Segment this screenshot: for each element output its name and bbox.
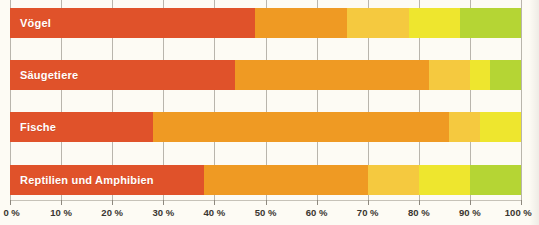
bar-row[interactable] [10, 165, 521, 195]
bar-row[interactable] [10, 8, 521, 38]
axis-tick-0 [10, 200, 11, 205]
axis-tick-label: 0 % [3, 207, 19, 218]
bar-segment[interactable] [10, 60, 235, 90]
bar-segment[interactable] [347, 8, 408, 38]
axis-tick-label: 60 % [306, 207, 328, 218]
stacked-bar-chart: VögelSäugetiereFischeReptilien und Amphi… [0, 0, 539, 225]
axis-tick-30 [163, 200, 164, 205]
axis-tick-label: 80 % [408, 207, 430, 218]
bar-segment[interactable] [204, 165, 368, 195]
bar-segment[interactable] [480, 112, 521, 142]
bar-segment[interactable] [470, 165, 521, 195]
bar-segment[interactable] [460, 8, 521, 38]
axis-tick-80 [419, 200, 420, 205]
x-axis: 0 %10 %20 %30 %40 %50 %60 %70 %80 %90 %1… [10, 200, 521, 225]
bar-segment[interactable] [235, 60, 429, 90]
axis-tick-label: 20 % [101, 207, 123, 218]
bar-segment[interactable] [449, 112, 480, 142]
axis-tick-100 [521, 200, 522, 205]
bar-segment[interactable] [409, 8, 460, 38]
axis-tick-40 [214, 200, 215, 205]
axis-tick-label: 100 % [505, 207, 532, 218]
bar-rows: VögelSäugetiereFischeReptilien und Amphi… [10, 0, 521, 200]
axis-tick-70 [368, 200, 369, 205]
bar-segment[interactable] [10, 165, 204, 195]
bar-segment[interactable] [10, 112, 153, 142]
axis-tick-label: 70 % [357, 207, 379, 218]
axis-tick-90 [470, 200, 471, 205]
plot-area: VögelSäugetiereFischeReptilien und Amphi… [10, 0, 521, 200]
bar-segment[interactable] [490, 60, 521, 90]
axis-tick-50 [266, 200, 267, 205]
bar-segment[interactable] [470, 60, 490, 90]
axis-tick-60 [317, 200, 318, 205]
axis-tick-label: 10 % [50, 207, 72, 218]
bar-segment[interactable] [153, 112, 449, 142]
axis-tick-label: 90 % [459, 207, 481, 218]
gridline-100 [521, 0, 522, 200]
axis-tick-label: 50 % [255, 207, 277, 218]
axis-tick-label: 40 % [204, 207, 226, 218]
bar-segment[interactable] [10, 8, 255, 38]
bar-segment[interactable] [255, 8, 347, 38]
page-edge-shadow [529, 0, 539, 225]
bar-segment[interactable] [368, 165, 419, 195]
axis-tick-10 [61, 200, 62, 205]
bar-row[interactable] [10, 60, 521, 90]
bar-row[interactable] [10, 112, 521, 142]
axis-tick-20 [112, 200, 113, 205]
axis-tick-label: 30 % [152, 207, 174, 218]
bar-segment[interactable] [429, 60, 470, 90]
bar-segment[interactable] [419, 165, 470, 195]
